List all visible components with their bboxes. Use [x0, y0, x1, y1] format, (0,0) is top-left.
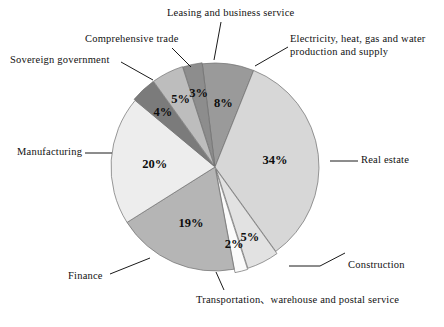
slice-percentage-label: 2%: [225, 237, 244, 251]
slice-label-real-estate: Real estate: [361, 154, 409, 167]
slice-label-transportation-warehouse-and-postal-service: Transportation、warehouse and postal serv…: [196, 294, 399, 307]
leader-line-sovereign-government: [121, 62, 153, 80]
slice-label-construction: Construction: [348, 259, 405, 272]
leader-line-electricity: [255, 47, 288, 66]
slice-percentage-label: 19%: [178, 216, 203, 230]
slice-label-electricity-line2: production and supply: [290, 46, 388, 57]
slice-label-electricity-line1: Electricity, heat, gas and water: [290, 33, 425, 44]
slice-percentage-label: 8%: [214, 96, 233, 110]
slice-label-leasing-and-business-service: Leasing and business service: [167, 7, 294, 20]
slice-percentage-label: 4%: [154, 105, 173, 119]
slice-label-sovereign-government: Sovereign government: [10, 54, 110, 67]
slice-label-comprehensive-trade: Comprehensive trade: [85, 33, 179, 46]
slice-percentage-label: 3%: [189, 86, 208, 100]
slice-percentage-label: 34%: [262, 153, 287, 167]
pie-chart-figure: 8%34%5%2%19%20%4%5%3% Leasing and busine…: [0, 0, 444, 327]
leader-line-construction-diagonal: [320, 253, 345, 266]
leader-line-transportation: [216, 272, 224, 290]
leader-line-comprehensive-trade: [172, 48, 191, 67]
slice-percentage-label: 5%: [171, 92, 190, 106]
slice-label-finance: Finance: [68, 270, 103, 283]
leader-line-leasing: [214, 22, 221, 60]
slice-label-manufacturing: Manufacturing: [17, 146, 82, 159]
slice-label-electricity-heat-gas-and-water-production-and-supply: Electricity, heat, gas and water product…: [290, 33, 442, 58]
slice-percentage-label: 20%: [142, 157, 167, 171]
leader-line-finance: [110, 258, 150, 274]
